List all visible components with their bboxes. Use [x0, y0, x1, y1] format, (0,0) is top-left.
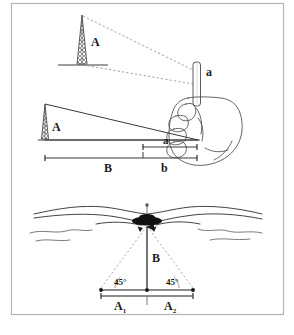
station-point-left: [99, 288, 103, 292]
tower-height-label-middle: A: [52, 120, 61, 134]
station-point-center: [145, 288, 149, 292]
figure-root: A a: [0, 0, 294, 335]
angle-left-label: 45°: [114, 277, 127, 287]
stick-length-label: a: [206, 65, 212, 79]
station-point-right: [191, 288, 195, 292]
tower-height-label-top: A: [91, 35, 100, 49]
baseline-B-label: B: [104, 161, 112, 175]
segment-b-label: b: [161, 161, 168, 175]
sighting-stick: [193, 62, 201, 106]
range-estimation-figure: A a: [0, 0, 294, 335]
height-B-label: B: [152, 251, 160, 265]
angle-right-label: 45°: [166, 277, 179, 287]
segment-a-label: a: [163, 134, 169, 146]
